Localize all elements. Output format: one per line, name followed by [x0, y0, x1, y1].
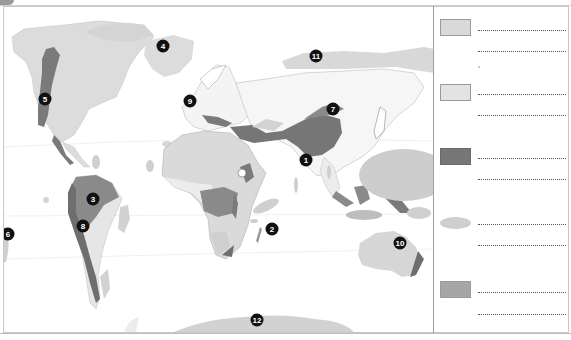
map-marker-2[interactable]: 2 — [266, 223, 279, 236]
legend-answer-line-2a[interactable] — [478, 94, 566, 95]
map-marker-5[interactable]: 5 — [39, 93, 52, 106]
legend-answer-line-3a[interactable] — [478, 158, 566, 159]
antarctica — [174, 315, 354, 332]
map-marker-10[interactable]: 10 — [394, 237, 407, 250]
legend-answer-line-1a[interactable] — [478, 30, 566, 31]
map-marker-12[interactable]: 12 — [251, 314, 264, 327]
map-marker-9[interactable]: 9 — [184, 95, 197, 108]
legend-answer-line-3b[interactable] — [478, 179, 566, 180]
map-marker-4[interactable]: 4 — [157, 40, 170, 53]
legend-answer-line-5a[interactable] — [478, 292, 566, 293]
siberia — [282, 47, 434, 73]
legend-answer-line-1b[interactable] — [478, 51, 566, 52]
legend-swatch-4 — [440, 217, 471, 229]
legend-panel — [434, 7, 569, 332]
legend-answer-line-5b[interactable] — [478, 314, 566, 315]
australia — [358, 231, 420, 277]
world-map: 1 2 3 4 5 6 7 8 9 10 11 12 — [4, 7, 434, 332]
greenland — [144, 35, 194, 77]
map-marker-11[interactable]: 11 — [310, 50, 323, 63]
legend-swatch-3 — [440, 148, 471, 165]
legend-swatch-5 — [440, 281, 471, 298]
legend-answer-line-4b[interactable] — [478, 245, 566, 246]
bottom-rule — [0, 333, 571, 334]
map-marker-7[interactable]: 7 — [327, 103, 340, 116]
world-map-graphic — [4, 7, 434, 332]
legend-swatch-1 — [440, 19, 471, 36]
legend-swatch-2 — [440, 84, 471, 101]
map-marker-3[interactable]: 3 — [87, 193, 100, 206]
pacific-oval — [359, 149, 434, 201]
legend-answer-line-2b[interactable] — [478, 115, 566, 116]
legend-answer-line-4a[interactable] — [478, 224, 566, 225]
stray-mark — [478, 66, 480, 68]
map-marker-8[interactable]: 8 — [77, 220, 90, 233]
map-marker-1[interactable]: 1 — [300, 154, 313, 167]
